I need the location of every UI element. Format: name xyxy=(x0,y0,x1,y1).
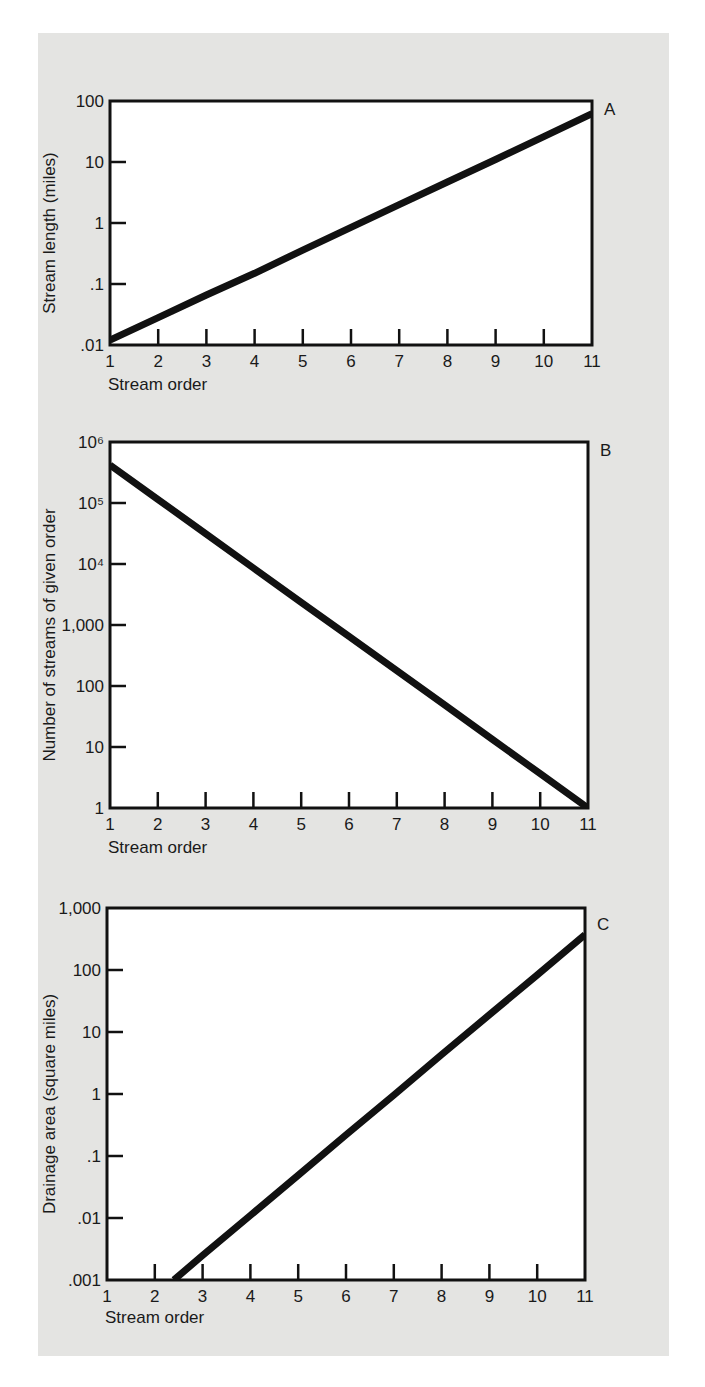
y-tick-label: 100 xyxy=(73,961,101,980)
y-axis-title: Drainage area (square miles) xyxy=(40,994,59,1214)
x-tick-label: 8 xyxy=(440,815,449,834)
x-tick-label: 9 xyxy=(485,1287,494,1306)
x-axis-title: Stream order xyxy=(108,838,208,857)
x-tick-label: 4 xyxy=(246,1287,255,1306)
panel-letter: C xyxy=(597,915,609,934)
x-axis-title: Stream order xyxy=(105,1308,205,1327)
y-axis-title: Number of streams of given order xyxy=(40,508,59,762)
y-axis-title: Stream length (miles) xyxy=(40,152,59,314)
y-tick-label: 10 xyxy=(85,738,104,757)
x-tick-label: 11 xyxy=(579,815,597,834)
y-tick-label: .1 xyxy=(87,1147,101,1166)
y-tick-label: 10⁵ xyxy=(78,494,104,513)
x-tick-label: 2 xyxy=(150,1287,159,1306)
x-tick-label: 2 xyxy=(153,352,162,371)
y-tick-label: .01 xyxy=(77,1209,101,1228)
y-tick-label: 10 xyxy=(85,153,104,172)
x-tick-label: 3 xyxy=(201,815,210,834)
y-tick-label: 100 xyxy=(76,677,104,696)
chart-panel-b: 10⁶10⁵10⁴1,0001001011234567891011Stream … xyxy=(40,433,611,857)
x-tick-label: 1 xyxy=(105,815,114,834)
y-tick-label: 1 xyxy=(95,799,104,818)
y-tick-label: 1 xyxy=(95,214,104,233)
y-tick-label: 1,000 xyxy=(58,899,101,918)
x-tick-label: 6 xyxy=(346,352,355,371)
x-tick-label: 1 xyxy=(102,1287,111,1306)
y-tick-label: .001 xyxy=(68,1271,101,1290)
x-axis-title: Stream order xyxy=(108,375,208,394)
y-tick-label: .01 xyxy=(80,336,104,355)
x-tick-label: 11 xyxy=(583,352,601,371)
y-tick-label: .1 xyxy=(90,275,104,294)
x-tick-label: 9 xyxy=(488,815,497,834)
chart-panel-c: 1,000100101.1.01.0011234567891011Stream … xyxy=(40,899,609,1327)
x-tick-label: 4 xyxy=(250,352,259,371)
plot-area xyxy=(107,908,585,1280)
y-tick-label: 10⁶ xyxy=(78,433,104,452)
x-tick-label: 7 xyxy=(394,352,403,371)
x-tick-label: 7 xyxy=(389,1287,398,1306)
x-tick-label: 3 xyxy=(202,352,211,371)
y-tick-label: 10⁴ xyxy=(78,555,104,574)
x-tick-label: 3 xyxy=(198,1287,207,1306)
y-tick-label: 100 xyxy=(76,92,104,111)
x-tick-label: 5 xyxy=(298,352,307,371)
stream-order-figure: 100101.1.011234567891011Stream orderStre… xyxy=(0,0,705,1387)
x-tick-label: 8 xyxy=(443,352,452,371)
x-tick-label: 9 xyxy=(491,352,500,371)
x-tick-label: 7 xyxy=(392,815,401,834)
x-tick-label: 1 xyxy=(105,352,114,371)
x-tick-label: 10 xyxy=(531,815,550,834)
x-tick-label: 10 xyxy=(528,1287,547,1306)
x-tick-label: 5 xyxy=(296,815,305,834)
x-tick-label: 6 xyxy=(341,1287,350,1306)
panel-letter: A xyxy=(604,100,616,119)
y-tick-label: 1,000 xyxy=(61,616,104,635)
y-tick-label: 10 xyxy=(82,1023,101,1042)
panel-letter: B xyxy=(600,441,611,460)
x-tick-label: 5 xyxy=(293,1287,302,1306)
x-tick-label: 2 xyxy=(153,815,162,834)
x-tick-label: 6 xyxy=(344,815,353,834)
x-tick-label: 8 xyxy=(437,1287,446,1306)
x-tick-label: 10 xyxy=(534,352,553,371)
x-tick-label: 4 xyxy=(249,815,258,834)
chart-panel-a: 100101.1.011234567891011Stream orderStre… xyxy=(40,92,616,394)
x-tick-label: 11 xyxy=(576,1287,594,1306)
y-tick-label: 1 xyxy=(92,1085,101,1104)
